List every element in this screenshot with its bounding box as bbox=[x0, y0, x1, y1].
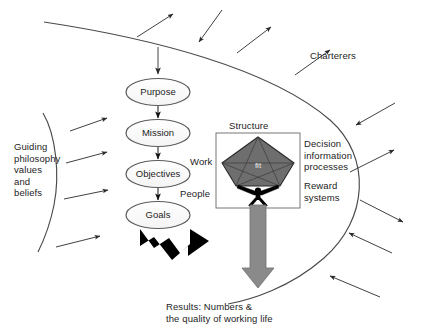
label-charterers: Charterers bbox=[310, 50, 356, 62]
label-results-line1: Results: Numbers & bbox=[166, 301, 252, 313]
arrow-in-bottom-1 bbox=[330, 276, 380, 297]
chain-group: Purpose Mission Objectives Goals bbox=[126, 79, 190, 229]
results-arrow bbox=[242, 205, 274, 288]
label-decision: Decision bbox=[304, 138, 341, 150]
boundary-arrows-top bbox=[137, 10, 330, 75]
arrow-in-right-2 bbox=[349, 233, 392, 253]
node-mission[interactable]: Mission bbox=[126, 120, 190, 147]
label-information: information bbox=[304, 150, 352, 162]
arrow-out-right-2 bbox=[360, 200, 403, 222]
label-processes: processes bbox=[304, 161, 348, 173]
arrow-out-top-1 bbox=[137, 14, 173, 37]
guiding-philosophy-boundary bbox=[38, 113, 57, 252]
label-work: Work bbox=[190, 156, 212, 168]
label-people: People bbox=[180, 188, 210, 200]
label-reward: Reward bbox=[304, 180, 337, 192]
label-guiding-5: beliefs bbox=[14, 187, 42, 199]
arrow-left-2 bbox=[66, 152, 107, 163]
arrow-left-3 bbox=[64, 190, 108, 199]
label-guiding-1: Guiding bbox=[14, 141, 47, 153]
arrow-out-top-2 bbox=[237, 27, 271, 53]
node-objectives-label: Objectives bbox=[136, 168, 181, 179]
node-mission-label: Mission bbox=[142, 127, 174, 138]
arrow-in-right-1 bbox=[356, 103, 395, 125]
label-guiding-4: and bbox=[14, 176, 30, 188]
node-goals-label: Goals bbox=[146, 209, 171, 220]
node-objectives[interactable]: Objectives bbox=[126, 161, 190, 188]
goals-to-fit-arrow bbox=[140, 229, 209, 260]
arrow-left-1 bbox=[70, 118, 107, 131]
label-guiding-2: philosophy bbox=[14, 153, 60, 165]
label-guiding-3: values bbox=[14, 164, 42, 176]
boundary-arrows-left bbox=[56, 118, 108, 247]
fit-box: fit bbox=[216, 133, 300, 208]
pentagon-fit-label: fit bbox=[255, 161, 262, 170]
diagram-canvas: Purpose Mission Objectives Goals bbox=[0, 0, 421, 335]
node-purpose-label: Purpose bbox=[140, 86, 175, 97]
arrow-left-4 bbox=[56, 236, 100, 247]
arrow-in-top-1 bbox=[199, 10, 222, 42]
label-results-line2: the quality of working life bbox=[166, 313, 273, 325]
node-purpose[interactable]: Purpose bbox=[126, 79, 190, 106]
node-goals[interactable]: Goals bbox=[126, 202, 190, 229]
diagram-svg: Purpose Mission Objectives Goals bbox=[0, 0, 421, 335]
label-systems: systems bbox=[304, 192, 340, 204]
label-structure: Structure bbox=[229, 120, 268, 132]
